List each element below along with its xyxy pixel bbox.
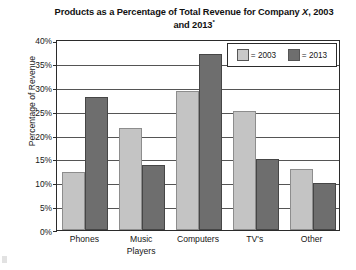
y-tick-mark (53, 231, 57, 232)
x-tick-label-line: TV's (226, 234, 283, 246)
x-tick-label-line: Other (283, 234, 340, 246)
bars-layer (57, 41, 339, 230)
x-tick-label-other: Other (283, 234, 340, 246)
x-tick-label-line: Computers (170, 234, 227, 246)
scan-artifact (2, 256, 7, 263)
x-tick-label-line: Phones (56, 234, 113, 246)
bar-2013-music-players (142, 165, 165, 230)
x-tick-label-computers: Computers (170, 234, 227, 246)
y-axis-title: Percentage of Revenue (27, 31, 37, 171)
y-tick-label: 25% (35, 108, 52, 118)
bar-2003-other (290, 169, 313, 230)
bar-group (57, 41, 114, 230)
y-tick-label: 15% (35, 155, 52, 165)
chart-title-footnote-marker: * (212, 18, 214, 24)
chart-title-prefix: for Company (243, 7, 302, 17)
y-tick-label: 10% (35, 179, 52, 189)
bar-2003-computers (176, 91, 199, 230)
y-tick-label: 5% (40, 203, 52, 213)
x-tick-label-tv-s: TV's (226, 234, 283, 246)
bar-2013-tv-s (256, 159, 279, 230)
y-tick-label: 0% (40, 227, 52, 237)
y-tick-label: 20% (35, 132, 52, 142)
y-tick-label: 35% (35, 60, 52, 70)
bar-group (227, 41, 284, 230)
bar-group (284, 41, 341, 230)
x-tick-label-phones: Phones (56, 234, 113, 246)
legend-label-2013: = 2013 (302, 51, 327, 60)
bar-group (114, 41, 171, 230)
x-tick-label-line: Players (113, 246, 170, 258)
legend-item-2013: = 2013 (288, 49, 327, 61)
x-tick-label-line: Music (113, 234, 170, 246)
bar-chart-figure: Products as a Percentage of Total Revenu… (0, 0, 356, 270)
legend-swatch-2003 (237, 49, 249, 61)
chart-legend: = 2003 = 2013 (227, 43, 337, 67)
x-tick-label-music-players: MusicPlayers (113, 234, 170, 257)
bar-2003-music-players (119, 128, 142, 230)
legend-label-2003: = 2003 (251, 51, 276, 60)
chart-title-line-1: Products as a Percentage of Total Revenu… (55, 7, 241, 17)
bar-2013-computers (199, 54, 222, 230)
bar-2003-phones (62, 172, 85, 230)
bar-2013-phones (85, 97, 108, 230)
legend-item-2003: = 2003 (237, 49, 276, 61)
legend-swatch-2013 (288, 49, 300, 61)
plot-area: 0%5%10%15%20%25%30%35%40% (56, 40, 340, 231)
bar-group (171, 41, 228, 230)
bar-2003-tv-s (233, 111, 256, 230)
y-tick-label: 40% (35, 36, 52, 46)
y-tick-label: 30% (35, 84, 52, 94)
chart-title: Products as a Percentage of Total Revenu… (46, 6, 342, 31)
bar-2013-other (313, 183, 336, 230)
